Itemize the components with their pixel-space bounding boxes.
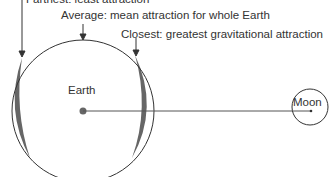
moon-center-dot bbox=[310, 110, 313, 113]
bulge-far-side bbox=[15, 58, 30, 158]
tidal-diagram bbox=[0, 0, 331, 177]
farthest-label: Farthest: least attraction bbox=[26, 0, 149, 5]
closest-label: Closest: greatest gravitational attracti… bbox=[121, 28, 323, 40]
average-label: Average: mean attraction for whole Earth bbox=[61, 9, 270, 21]
moon-label: Moon bbox=[293, 96, 322, 108]
bulge-near-side bbox=[132, 55, 147, 158]
earth-label: Earth bbox=[68, 84, 96, 96]
